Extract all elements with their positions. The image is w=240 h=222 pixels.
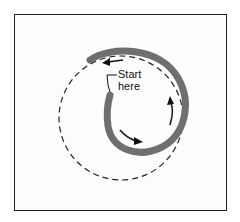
start-label: Start here: [118, 68, 141, 92]
arrow-right-icon: [167, 96, 174, 125]
start-label-line1: Start: [118, 68, 141, 80]
start-label-line2: here: [118, 80, 141, 92]
arrow-top-icon: [102, 58, 123, 66]
leader-line: [107, 75, 117, 92]
arrow-bottom-icon: [120, 130, 143, 145]
diagram-canvas: [0, 0, 240, 222]
